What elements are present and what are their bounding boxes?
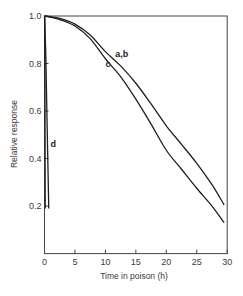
y-tick-label: 0.8 bbox=[29, 59, 42, 69]
x-axis-ticks: 051015202530 bbox=[42, 250, 232, 267]
data-curves bbox=[45, 16, 225, 223]
x-tick-label: 10 bbox=[100, 257, 110, 267]
x-tick-label: 30 bbox=[222, 257, 232, 267]
plot-border bbox=[45, 16, 228, 254]
curve-labels: a,bcd bbox=[51, 49, 129, 149]
x-tick-label: 5 bbox=[72, 257, 77, 267]
x-tick-label: 20 bbox=[161, 257, 171, 267]
y-tick-label: 0.6 bbox=[29, 106, 42, 116]
line-chart: 051015202530 0.20.40.60.81.0 a,bcd Time … bbox=[0, 0, 243, 296]
curve-label-d: d bbox=[51, 139, 57, 149]
curve-label-c: c bbox=[105, 59, 110, 69]
y-tick-label: 0.4 bbox=[29, 154, 42, 164]
plot-frame bbox=[45, 16, 228, 254]
x-tick-label: 0 bbox=[42, 257, 47, 267]
y-axis-label: Relative response bbox=[9, 100, 19, 168]
y-tick-label: 1.0 bbox=[29, 11, 42, 21]
x-tick-label: 25 bbox=[192, 257, 202, 267]
curve-c bbox=[45, 16, 225, 223]
curve-ab bbox=[45, 16, 225, 205]
y-tick-label: 0.2 bbox=[29, 201, 42, 211]
x-axis-label: Time in poison (h) bbox=[100, 271, 168, 281]
curve-label-ab: a,b bbox=[115, 49, 129, 59]
x-tick-label: 15 bbox=[131, 257, 141, 267]
